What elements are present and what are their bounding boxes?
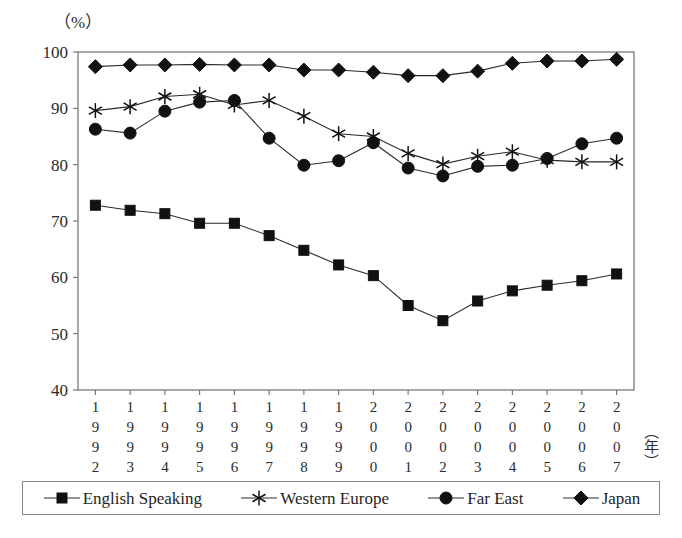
series-line-japan [95,59,616,75]
svg-text:0: 0 [404,419,412,435]
x-tick-label: 2005 [543,399,551,475]
svg-text:1: 1 [92,399,100,415]
svg-text:2: 2 [474,399,482,415]
svg-text:7: 7 [265,459,273,475]
svg-text:9: 9 [92,439,100,455]
data-point-square [438,316,448,326]
data-point-diamond [401,69,415,83]
y-tick-label: 40 [51,381,68,400]
series-line-english-speaking [95,205,616,320]
x-tick-label: 1996 [231,399,239,475]
svg-text:0: 0 [613,419,621,435]
svg-text:9: 9 [196,419,204,435]
data-point-diamond [540,54,554,68]
data-point-square [229,218,239,228]
svg-text:9: 9 [265,439,273,455]
x-tick-label: 2007 [613,399,621,475]
x-tick-label: 2000 [370,399,378,475]
data-point-square [90,200,100,210]
x-tick-label: 2004 [509,399,517,475]
x-tick-label: 2002 [439,399,447,475]
svg-text:2: 2 [543,399,551,415]
legend-item-english-speaking[interactable]: English Speaking [42,489,202,507]
data-point-square [542,280,552,290]
x-axis-unit-label: （年） [642,424,659,469]
svg-text:2: 2 [613,399,621,415]
x-tick-label: 2003 [474,399,482,475]
svg-text:1: 1 [265,399,273,415]
data-point-star [506,144,519,159]
data-point-circle [506,159,518,171]
y-tick-label: 90 [51,99,68,118]
svg-text:9: 9 [126,419,134,435]
svg-text:2: 2 [370,399,378,415]
data-point-circle [541,152,553,164]
svg-text:2: 2 [578,399,586,415]
data-point-circle [576,138,588,150]
svg-text:5: 5 [196,459,204,475]
svg-text:8: 8 [300,459,308,475]
svg-text:0: 0 [439,419,447,435]
svg-text:0: 0 [474,439,482,455]
data-point-circle [472,160,484,172]
data-point-diamond [610,52,624,66]
svg-text:9: 9 [300,419,308,435]
svg-text:0: 0 [370,459,378,475]
svg-text:9: 9 [126,439,134,455]
data-point-square [473,296,483,306]
x-tick-label: 1993 [126,399,134,475]
data-point-square [264,231,274,241]
data-point-diamond [262,58,276,72]
x-tick-label: 1998 [300,399,308,475]
x-tick-label: 1997 [265,399,273,475]
data-point-square [403,301,413,311]
svg-text:1: 1 [404,459,412,475]
svg-text:2: 2 [509,399,517,415]
data-point-square [299,245,309,255]
data-point-star [297,109,310,124]
data-point-star [402,146,415,161]
data-point-circle [298,159,310,171]
data-point-circle [194,96,206,108]
svg-text:0: 0 [613,439,621,455]
svg-text:2: 2 [439,459,447,475]
x-tick-label: 1995 [196,399,204,475]
legend-item-far-east[interactable]: Far East [426,489,523,507]
svg-text:1: 1 [231,399,239,415]
data-point-square [125,205,135,215]
data-point-square [334,260,344,270]
legend-label: English Speaking [82,490,202,507]
svg-text:2: 2 [404,399,412,415]
x-tick-label: 1994 [161,399,169,475]
series-line-western-europe [95,94,616,164]
svg-text:9: 9 [335,419,343,435]
plot-frame [78,52,634,390]
x-tick-label: 2001 [404,399,412,475]
data-point-diamond [332,63,346,77]
svg-text:9: 9 [335,439,343,455]
svg-text:0: 0 [370,419,378,435]
x-tick-label: 1999 [335,399,343,475]
y-tick-label: 60 [51,268,68,287]
chart-figure: （%） 405060708090100199219931994199519961… [0,0,682,538]
x-tick-label: 2006 [578,399,586,475]
legend-item-western-europe[interactable]: Western Europe [239,489,389,507]
svg-text:6: 6 [578,459,586,475]
svg-text:9: 9 [231,419,239,435]
svg-text:0: 0 [370,439,378,455]
svg-text:3: 3 [126,459,134,475]
data-point-circle [159,105,171,117]
svg-text:9: 9 [335,459,343,475]
data-point-circle [124,127,136,139]
svg-text:1: 1 [126,399,134,415]
svg-text:0: 0 [474,419,482,435]
svg-text:9: 9 [300,439,308,455]
legend-label: Far East [466,490,523,507]
data-point-square [368,271,378,281]
svg-text:2: 2 [92,459,100,475]
data-point-star [263,93,276,108]
svg-text:7: 7 [613,459,621,475]
svg-text:6: 6 [231,459,239,475]
legend-label: Japan [601,490,641,507]
legend-item-japan[interactable]: Japan [561,489,641,507]
